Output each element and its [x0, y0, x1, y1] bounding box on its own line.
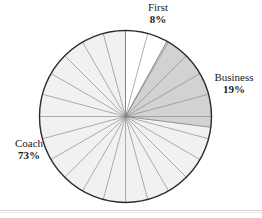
- slice-label-business-percent: 19%: [207, 84, 261, 96]
- pie-radial-spokes: [40, 31, 212, 203]
- slice-label-business: Business 19%: [207, 72, 261, 96]
- slice-label-first-percent: 8%: [121, 14, 195, 26]
- slice-label-coach-percent: 73%: [2, 150, 56, 162]
- footer-divider-rule-secondary: [0, 212, 262, 213]
- footer-divider-rule: [0, 210, 262, 211]
- pie-chart-graphic: [0, 0, 262, 218]
- slice-label-first: First 8%: [121, 2, 195, 26]
- slice-label-coach: Coach 73%: [2, 138, 56, 162]
- pie-chart-figure: First 8% Business 19% Coach 73%: [0, 0, 262, 218]
